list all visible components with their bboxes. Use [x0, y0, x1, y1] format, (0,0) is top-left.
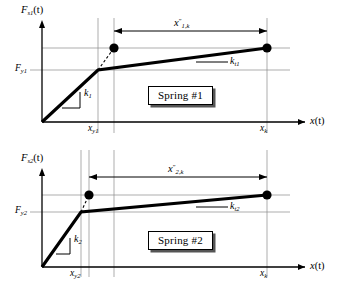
x-tick-yield-label-spring-2: xy2	[70, 269, 80, 279]
x-axis-title-spring-1: x(t)	[310, 116, 325, 127]
panel-spring-2: Fs2(t) x(t) Fy2 xy2 xk k2 kt2 x″2,k	[0, 150, 349, 300]
y-axis-title-spring-1: Fs1(t)	[21, 5, 43, 16]
dimension-arrow-spring-1	[114, 28, 267, 34]
caption-box-spring-1: Spring #1	[148, 86, 213, 105]
initial-stiffness-label-spring-1: k1	[84, 88, 92, 98]
y-axis-title-spring-2: Fs2(t)	[21, 153, 43, 164]
panel-spring-1: Fs1(t) x(t) Fy1 xy1 xk k1 kt1 x″1,k	[0, 0, 349, 150]
tangent-stiffness-label-spring-1: kt1	[230, 56, 240, 66]
axes-spring-2	[39, 168, 305, 270]
state-point-dot-spring-1	[262, 43, 271, 52]
gridlines-spring-2	[30, 150, 290, 277]
trial-point-dot-spring-2	[84, 190, 93, 199]
dimension-label-spring-2: x″2,k	[168, 164, 183, 175]
x-axis-title-spring-2: x(t)	[310, 261, 325, 272]
y-tick-label-spring-1: Fy1	[15, 64, 27, 74]
caption-box-spring-2: Spring #2	[148, 231, 213, 250]
trial-point-dot-spring-1	[109, 43, 118, 52]
axes-spring-1	[39, 20, 305, 125]
spring-force-displacement-figure: Fs1(t) x(t) Fy1 xy1 xk k1 kt1 x″1,k	[0, 0, 349, 300]
x-tick-current-label-spring-2: xk	[260, 269, 267, 279]
gridlines-spring-1	[30, 18, 290, 133]
x-tick-yield-label-spring-1: xy1	[88, 124, 98, 134]
initial-stiffness-label-spring-2: k2	[74, 234, 82, 244]
state-point-dot-spring-2	[262, 190, 271, 199]
tangent-stiffness-label-spring-2: kt2	[230, 201, 240, 211]
y-tick-label-spring-2: Fy2	[15, 206, 27, 216]
x-tick-current-label-spring-1: xk	[260, 124, 267, 134]
dimension-label-spring-1: x″1,k	[174, 18, 189, 29]
